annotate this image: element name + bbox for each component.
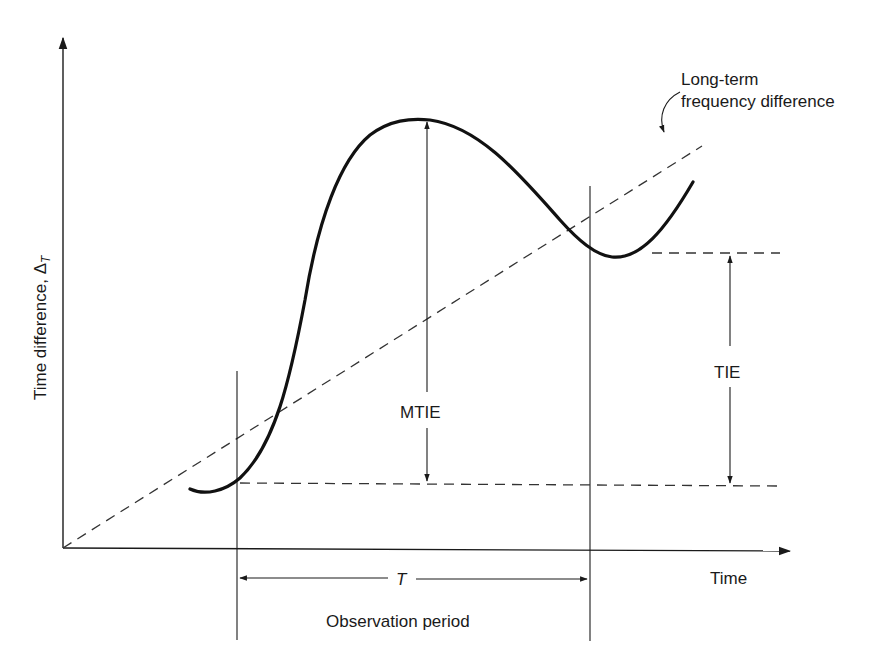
observation-period-label: Observation period: [326, 612, 470, 631]
long-term-label-line1: Long-term: [681, 70, 758, 89]
y-axis-label: Time difference, ΔT: [31, 254, 53, 400]
mtie-tie-diagram: Time difference, ΔT Time Long-term frequ…: [0, 0, 893, 668]
x-axis-label: Time: [710, 569, 747, 588]
min-reference-line: [240, 483, 780, 486]
long-term-pointer-arrow: [662, 92, 680, 132]
x-axis: [63, 548, 790, 551]
long-term-label-line2: frequency difference: [681, 92, 835, 111]
time-difference-curve: [190, 119, 693, 492]
period-symbol: T: [396, 570, 408, 589]
tie-label: TIE: [714, 363, 740, 382]
mtie-label: MTIE: [400, 403, 441, 422]
long-term-frequency-line: [63, 146, 702, 548]
